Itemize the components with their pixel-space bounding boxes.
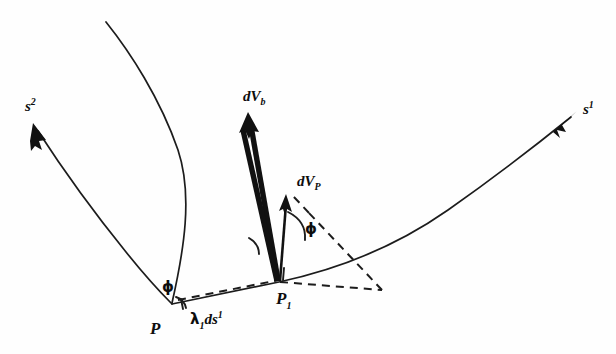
curve-upper-left [106,22,186,303]
vector-label-dvp: dVP [297,173,322,192]
angle-arc-phi-right [288,212,305,240]
dashed-segment-p1-right [280,282,382,290]
angle-label-phi-left: ϕ [162,278,174,296]
vector-label-dvb: dVb [243,88,266,107]
point-label-p1: P1 [275,289,291,311]
dashed-chord-p-to-p1 [178,280,279,300]
length-label-lambda: λ [190,310,200,328]
length-label-ds: ds [205,311,219,327]
angle-label-phi-right: ϕ [305,220,317,238]
dashed-segment-corner-up [309,213,382,290]
length-label-ds-superscript: 1 [218,309,223,320]
geometry-diagram: s2 s1 dVb dVP P P1 λ1ds1 ϕ ϕ [0,0,616,354]
length-label-lambda-ds: λ1ds1 [190,309,223,331]
point-label-p1-subscript: 1 [286,300,291,311]
vector-dvb-edge [243,130,277,281]
point-label-p1-base: P [275,289,287,308]
s1-arrowhead [553,111,577,138]
axis-label-s1-superscript: 1 [589,99,594,110]
axis-label-s2-superscript: 2 [30,96,36,107]
curve-s2-axis [38,131,172,304]
axis-label-s1: s1 [582,99,594,117]
figure-container: s2 s1 dVb dVP P P1 λ1ds1 ϕ ϕ [0,0,616,354]
axis-label-s2: s2 [24,96,36,114]
dashed-segment-upper-tail [293,196,309,213]
curve-s1-axis [172,117,571,304]
angle-arc-lambda [249,238,259,254]
vector-label-dvp-subscript: P [315,181,322,192]
vector-label-dvb-subscript: b [261,96,266,107]
point-label-p: P [149,319,161,338]
angle-tick-p1 [283,268,284,280]
vector-dvp-arrowhead [279,194,292,215]
s2-arrowhead [30,123,46,151]
